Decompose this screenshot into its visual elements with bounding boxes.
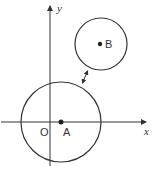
diagram-canvas: x y O A B (0, 0, 152, 171)
distance-double-arrow-icon (83, 71, 88, 83)
x-axis-label: x (143, 125, 149, 137)
center-label-a: A (63, 126, 71, 138)
center-point-b (98, 42, 102, 46)
center-point-a (59, 120, 64, 125)
y-axis-label: y (56, 2, 62, 14)
circle-b: B (75, 18, 127, 70)
center-label-b: B (105, 38, 112, 50)
y-axis: y (50, 2, 62, 166)
origin-label: O (40, 126, 49, 138)
